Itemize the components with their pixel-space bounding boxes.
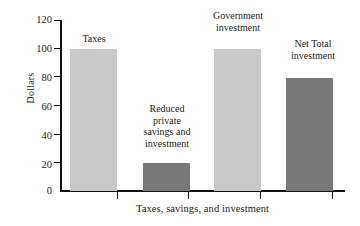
y-tick-label-0: 0 — [26, 186, 52, 196]
bar-reduced-private-savings-and-investment — [143, 163, 190, 191]
bar-label-net-total-investment: Net Total investment — [275, 38, 351, 61]
bar-chart: Dollars 120 100 80 60 40 20 0 Taxes Redu… — [0, 0, 360, 226]
bar-label-government-investment: Government investment — [199, 10, 277, 33]
y-tick-label-80: 80 — [26, 73, 52, 83]
y-tick-label-20: 20 — [26, 160, 52, 170]
y-axis-title: Dollars — [25, 53, 36, 123]
x-tick-mark-1 — [117, 192, 118, 199]
y-tick-label-40: 40 — [26, 131, 52, 141]
x-tick-mark-3 — [260, 192, 261, 199]
bar-government-investment — [214, 49, 261, 191]
x-tick-mark-2 — [188, 192, 189, 199]
y-tick-label-120: 120 — [26, 15, 52, 25]
bar-net-total-investment — [286, 78, 333, 191]
bar-taxes — [70, 49, 117, 191]
bar-label-taxes: Taxes — [62, 33, 126, 45]
x-axis-title: Taxes, savings, and investment — [60, 203, 345, 214]
y-tick-label-100: 100 — [26, 44, 52, 54]
y-tick-label-60: 60 — [26, 102, 52, 112]
bar-label-reduced-private-savings-and-investment: Reduced private savings and investment — [131, 103, 203, 149]
x-tick-mark-4 — [332, 192, 333, 199]
y-axis-line — [60, 20, 62, 191]
